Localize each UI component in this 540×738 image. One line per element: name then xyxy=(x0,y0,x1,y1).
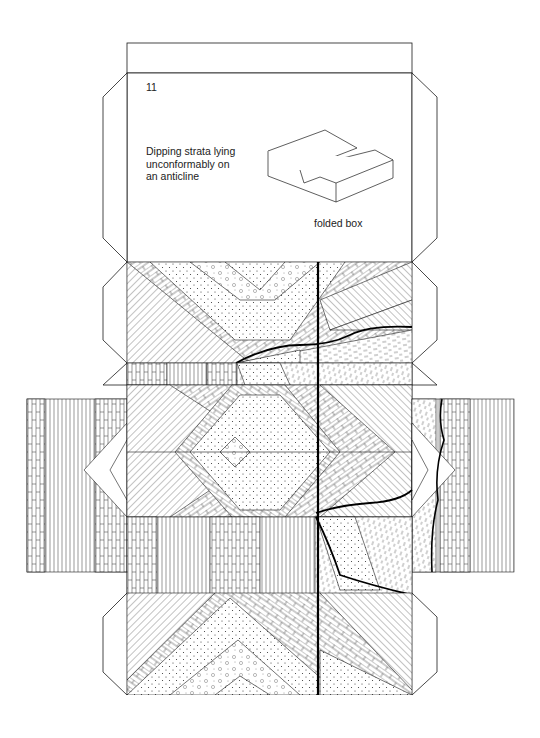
card-title: Dipping strata lying unconformably on an… xyxy=(146,145,235,183)
bottom-strata-face xyxy=(127,593,412,695)
box-caption: folded box xyxy=(314,217,362,230)
left-glue-flap-upper xyxy=(103,262,127,363)
card-title-line-1: Dipping strata lying xyxy=(146,145,235,158)
upper-strip-row xyxy=(127,363,412,385)
card-title-line-2: unconformably on xyxy=(146,158,235,171)
right-glue-flap-bottom xyxy=(412,593,437,695)
left-triangle-flap xyxy=(103,363,127,385)
upper-strata-face xyxy=(127,262,412,363)
right-glue-flap-top xyxy=(412,73,437,262)
right-triangle-flap xyxy=(412,363,437,385)
card-title-line-3: an anticline xyxy=(146,170,235,183)
folding-net-diagram xyxy=(0,0,540,738)
left-glue-flap-bottom xyxy=(103,593,127,695)
left-glue-flap-top xyxy=(103,73,127,262)
top-glue-flap xyxy=(127,43,412,73)
right-glue-flap-upper xyxy=(412,262,437,363)
card-number: 11 xyxy=(146,81,157,94)
